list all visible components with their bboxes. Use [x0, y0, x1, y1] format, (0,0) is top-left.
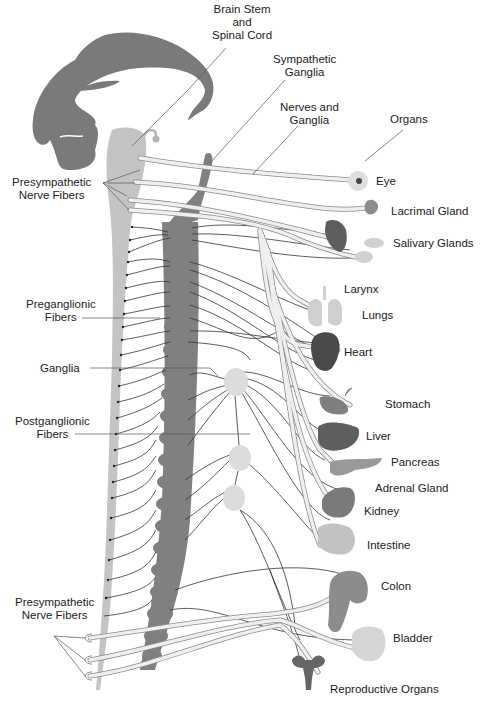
label-line: Nerve Fibers — [15, 609, 94, 622]
organ-colon-icon — [328, 571, 368, 632]
label-line: Ganglia — [280, 114, 339, 127]
label-postganglionic-fibers: Postganglionic Fibers — [15, 415, 90, 441]
label-line: Fibers — [26, 311, 96, 324]
label-presympathetic-bottom: Presympathetic Nerve Fibers — [15, 596, 94, 622]
label-line: Spinal Cord — [212, 29, 272, 42]
label-brain-stem-spinal-cord: Brain Stem and Spinal Cord — [212, 3, 272, 42]
label-preganglionic-fibers: Preganglionic Fibers — [26, 298, 96, 324]
label-organs: Organs — [390, 113, 428, 126]
label-organ-colon: Colon — [381, 580, 411, 593]
label-line: Fibers — [15, 428, 90, 441]
label-line: Nerves and — [280, 101, 339, 114]
label-organ-lacrimal-gland: Lacrimal Gland — [391, 205, 468, 218]
organ-eye-icon — [348, 171, 368, 191]
label-line: and — [212, 16, 272, 29]
collateral-ganglia — [223, 368, 251, 511]
label-organ-bladder: Bladder — [393, 632, 433, 645]
label-line: Nerve Fibers — [12, 189, 91, 202]
label-line: Presympathetic — [15, 596, 94, 609]
organ-pancreas-icon — [330, 458, 382, 476]
label-organ-eye: Eye — [376, 175, 396, 188]
label-line: Ganglia — [273, 66, 336, 79]
label-line: Preganglionic — [26, 298, 96, 311]
label-ganglia: Ganglia — [40, 362, 80, 375]
label-line: Postganglionic — [15, 415, 90, 428]
label-organ-lungs: Lungs — [362, 309, 393, 322]
label-organ-reproductive-organs: Reproductive Organs — [330, 683, 439, 696]
label-organ-intestine: Intestine — [367, 539, 410, 552]
label-line: Brain Stem — [212, 3, 272, 16]
label-organ-kidney: Kidney — [364, 505, 399, 518]
organ-lacrimal-gland-icon — [365, 200, 378, 215]
label-line: Sympathetic — [273, 53, 336, 66]
organ-bladder-icon — [352, 627, 385, 662]
label-organ-larynx: Larynx — [344, 283, 379, 296]
label-organ-liver: Liver — [366, 430, 391, 443]
label-organ-adrenal-gland: Adrenal Gland — [375, 482, 449, 495]
label-sympathetic-ganglia: Sympathetic Ganglia — [273, 53, 336, 79]
organ-lungs-icon — [308, 286, 342, 326]
label-presympathetic-top: Presympathetic Nerve Fibers — [12, 176, 91, 202]
organ-intestine-icon — [318, 524, 355, 555]
label-organ-stomach: Stomach — [385, 398, 430, 411]
label-nerves-and-ganglia: Nerves and Ganglia — [280, 101, 339, 127]
label-line: Presympathetic — [12, 176, 91, 189]
sympathetic-chain — [140, 153, 213, 670]
organ-salivary-glands-icon — [355, 238, 384, 263]
label-organ-pancreas: Pancreas — [391, 456, 440, 469]
organ-liver-icon — [318, 423, 359, 451]
organ-heart-icon — [311, 332, 339, 371]
nerve-bundles — [90, 158, 365, 676]
label-organ-salivary-glands: Salivary Glands — [393, 237, 474, 250]
label-organ-heart: Heart — [344, 346, 372, 359]
